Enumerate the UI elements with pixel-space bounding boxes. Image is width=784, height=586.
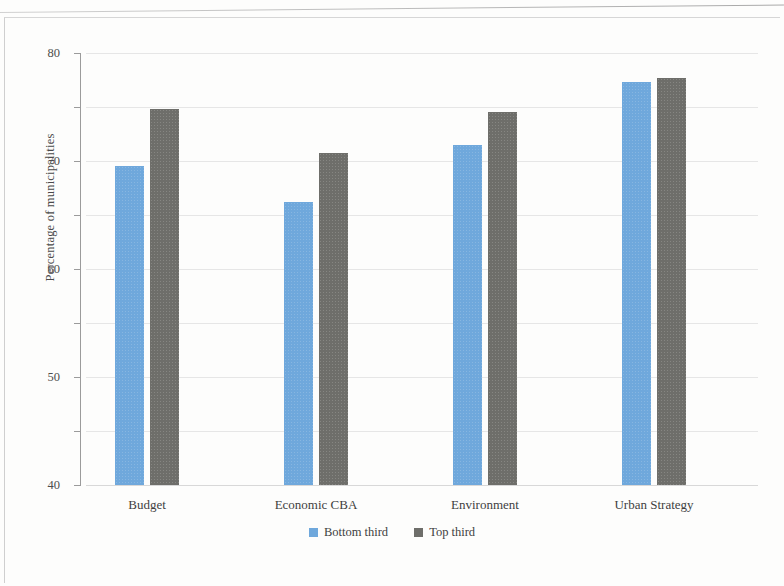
- bar-budget-bottom-third: [115, 166, 144, 485]
- y-axis-tick-label: 80: [48, 46, 61, 61]
- bar-urban-strategy-top-third: [657, 78, 686, 485]
- legend-swatch-icon: [414, 528, 423, 537]
- bar-group: Economic CBA: [284, 53, 348, 485]
- x-axis-category-label: Urban Strategy: [574, 497, 734, 513]
- legend-item-top-third: Top third: [414, 525, 475, 540]
- y-axis-tick: 10: [74, 431, 81, 432]
- bar-texture: [453, 145, 482, 485]
- bar-texture: [622, 82, 651, 485]
- legend-label: Bottom third: [324, 525, 388, 540]
- bar-urban-strategy-bottom-third: [622, 82, 651, 485]
- y-axis-tick: 40: [74, 269, 81, 270]
- plot-area: 01020304050607080BudgetEconomic CBAEnvir…: [86, 53, 758, 485]
- bar-group: Urban Strategy: [622, 53, 686, 485]
- y-axis-tick-label: 40: [48, 478, 61, 493]
- gridline: [86, 485, 758, 486]
- bar-texture: [319, 153, 348, 485]
- y-axis-tick-label: 60: [48, 262, 61, 277]
- y-axis-label: Percentage of municipalities: [43, 88, 58, 328]
- y-axis-tick: 20: [74, 377, 81, 378]
- x-axis-category-label: Economic CBA: [236, 497, 396, 513]
- bar-texture: [488, 112, 517, 485]
- scanned-page: Percentage of municipalities 01020304050…: [0, 0, 784, 586]
- bar-economic-cba-top-third: [319, 153, 348, 485]
- bar-budget-top-third: [150, 109, 179, 485]
- bar-texture: [284, 202, 313, 486]
- y-axis-tick: 50: [74, 215, 81, 216]
- y-axis-tick: 0: [74, 485, 81, 486]
- y-axis-tick-label: 50: [48, 370, 61, 385]
- y-axis-tick: 60: [74, 161, 81, 162]
- chart-legend: Bottom thirdTop third: [0, 525, 784, 540]
- bar-economic-cba-bottom-third: [284, 202, 313, 486]
- bar-group: Budget: [115, 53, 179, 485]
- legend-swatch-icon: [309, 528, 318, 537]
- x-axis-category-label: Environment: [405, 497, 565, 513]
- legend-label: Top third: [429, 525, 475, 540]
- x-axis-category-label: Budget: [67, 497, 227, 513]
- y-axis-tick: 30: [74, 323, 81, 324]
- y-axis-tick: 80: [74, 53, 81, 54]
- y-axis-tick-label: 70: [48, 154, 61, 169]
- bar-texture: [150, 109, 179, 485]
- bar-chart: Percentage of municipalities 01020304050…: [0, 0, 784, 586]
- bar-texture: [657, 78, 686, 485]
- bar-texture: [115, 166, 144, 485]
- y-axis-tick: 70: [74, 107, 81, 108]
- legend-item-bottom-third: Bottom third: [309, 525, 388, 540]
- bar-group: Environment: [453, 53, 517, 485]
- bar-environment-bottom-third: [453, 145, 482, 485]
- bar-environment-top-third: [488, 112, 517, 485]
